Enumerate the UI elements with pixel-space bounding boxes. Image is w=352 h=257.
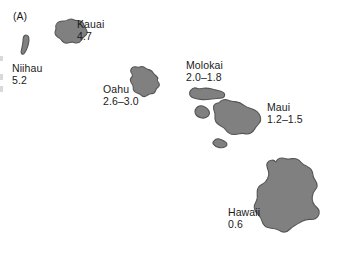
island-age-molokai: 2.0–1.8 <box>186 72 223 84</box>
island-shape-kahoolawe <box>213 139 227 148</box>
island-label-oahu: Oahu 2.6–3.0 <box>103 84 139 107</box>
scan-artifact-mark <box>0 86 3 92</box>
island-age-oahu: 2.6–3.0 <box>103 96 139 108</box>
island-age-hawaii: 0.6 <box>228 219 260 231</box>
scan-artifact-mark <box>0 56 3 61</box>
island-label-niihau: Niihau 5.2 <box>12 63 42 86</box>
island-label-maui: Maui 1.2–1.5 <box>267 102 303 125</box>
island-shape-niihau <box>21 35 29 54</box>
island-shape-lanai <box>195 106 209 118</box>
island-name-molokai: Molokai <box>186 60 223 72</box>
island-age-maui: 1.2–1.5 <box>267 114 303 126</box>
island-label-kauai: Kauai 4.7 <box>77 19 104 42</box>
island-name-niihau: Niihau <box>12 63 42 75</box>
island-age-niihau: 5.2 <box>12 75 42 87</box>
island-name-maui: Maui <box>267 102 303 114</box>
island-shape-maui <box>213 100 260 135</box>
scan-artifact-mark <box>0 74 3 80</box>
island-label-hawaii: Hawaii 0.6 <box>228 207 260 230</box>
island-label-molokai: Molokai 2.0–1.8 <box>186 60 223 83</box>
hawaii-island-age-map: (A) Kauai 4.7 Niihau 5.2 Oahu 2.6–3.0 Mo… <box>0 0 352 257</box>
island-shape-hawaii <box>254 158 319 232</box>
island-name-hawaii: Hawaii <box>228 207 260 219</box>
island-name-kauai: Kauai <box>77 19 104 31</box>
island-age-kauai: 4.7 <box>77 31 104 43</box>
island-name-oahu: Oahu <box>103 84 139 96</box>
island-shape-molokai <box>190 88 225 100</box>
island-shapes-layer <box>0 0 352 257</box>
panel-label: (A) <box>13 10 27 22</box>
